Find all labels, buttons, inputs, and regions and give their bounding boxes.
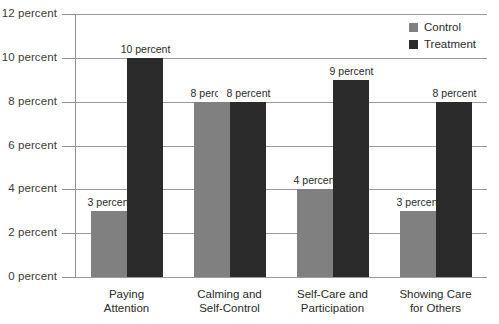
y-axis-tick-label: 0 percent (0, 271, 57, 283)
bar-treatment-1 (127, 58, 163, 277)
category-label-line2: Attention (67, 301, 187, 315)
bar-value-label: 8 percent (424, 88, 486, 99)
bar-chart: 0 percent2 percent4 percent6 percent8 pe… (0, 0, 499, 324)
bar-control-4 (400, 211, 436, 277)
bar-control-3 (297, 189, 333, 277)
legend-item-treatment[interactable]: Treatment (409, 37, 499, 52)
x-axis-category-label-4: Showing Carefor Others (376, 287, 496, 315)
category-label-line2: for Others (376, 301, 496, 315)
y-axis-tick-label: 12 percent (0, 8, 57, 20)
y-axis-tick-label: 2 percent (0, 227, 57, 239)
category-label-line1: Self-Care and (297, 288, 368, 300)
y-axis-tick-mark (62, 233, 75, 234)
y-axis-tick-label: 6 percent (0, 140, 57, 152)
bar-value-label: 9 percent (321, 66, 383, 77)
bar-control-2 (194, 102, 230, 277)
bar-treatment-4 (436, 102, 472, 277)
y-axis-tick-mark (62, 102, 75, 103)
y-axis-tick-mark (62, 189, 75, 190)
control-swatch-icon (409, 23, 418, 32)
category-label-line1: Showing Care (399, 288, 471, 300)
legend-item-label: Treatment (424, 39, 476, 51)
treatment-swatch-icon (409, 40, 418, 49)
y-axis-tick-label: 8 percent (0, 96, 57, 108)
category-label-line1: Calming and (197, 288, 262, 300)
y-axis-tick-mark (62, 58, 75, 59)
y-axis-tick-mark (62, 277, 75, 278)
x-axis-category-label-2: Calming andSelf-Control (170, 287, 290, 315)
bar-treatment-3 (333, 80, 369, 277)
legend-item-control[interactable]: Control (409, 20, 499, 35)
bar-value-label: 8 percent (218, 88, 280, 99)
x-axis-category-label-3: Self-Care andParticipation (273, 287, 393, 315)
legend-item-label: Control (424, 22, 461, 34)
y-axis-tick-label: 4 percent (0, 183, 57, 195)
category-label-line2: Self-Control (170, 301, 290, 315)
y-axis-tick-label: 10 percent (0, 52, 57, 64)
gridline (75, 277, 487, 278)
x-axis-category-label-1: PayingAttention (67, 287, 187, 315)
category-label-line1: Paying (109, 288, 144, 300)
category-label-line2: Participation (273, 301, 393, 315)
chart-legend: ControlTreatment (409, 20, 499, 54)
y-axis-tick-mark (62, 14, 75, 15)
y-axis-tick-mark (62, 146, 75, 147)
bar-value-label: 10 percent (115, 44, 177, 55)
bar-control-1 (91, 211, 127, 277)
bar-treatment-2 (230, 102, 266, 277)
gridline (75, 14, 487, 15)
